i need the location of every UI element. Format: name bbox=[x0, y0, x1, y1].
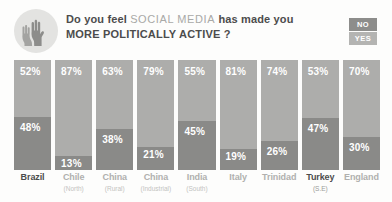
bar-segment-no: 55% bbox=[178, 60, 215, 121]
bar-segment-yes: 26% bbox=[261, 141, 298, 170]
country-name: Turkey bbox=[302, 172, 339, 183]
bar-column: 55%45% bbox=[178, 60, 215, 170]
bar-column: 87%13% bbox=[55, 60, 92, 170]
category-labels-row: BrazilChile(North)China(Rural)China(Indu… bbox=[14, 172, 380, 200]
bar-column: 79%21% bbox=[137, 60, 174, 170]
bar-column: 53%47% bbox=[302, 60, 339, 170]
legend-item-yes: YES bbox=[349, 32, 377, 45]
country-name: China bbox=[137, 172, 174, 183]
bar-segment-no: 70% bbox=[343, 60, 380, 137]
poll-question: Do you feel SOCIAL MEDIA has made you MO… bbox=[66, 12, 328, 41]
bar-value-yes: 48% bbox=[14, 117, 41, 133]
country-name: Italy bbox=[220, 172, 257, 183]
bar-segment-yes: 47% bbox=[302, 118, 339, 170]
bar-column: 74%26% bbox=[261, 60, 298, 170]
legend: NO YES bbox=[349, 18, 377, 45]
bar-segment-no: 52% bbox=[14, 60, 51, 117]
country-region: (South) bbox=[178, 184, 215, 193]
bar-segment-yes: 21% bbox=[137, 147, 174, 170]
bar-segment-yes: 30% bbox=[343, 137, 380, 170]
category-label: Italy bbox=[220, 172, 257, 200]
country-name: England bbox=[343, 172, 380, 183]
bar-segment-no: 79% bbox=[137, 60, 174, 147]
bar-value-no: 87% bbox=[55, 60, 82, 77]
bar-column: 70%30% bbox=[343, 60, 380, 170]
question-part-2: has made you bbox=[218, 13, 293, 25]
bar-segment-yes: 13% bbox=[55, 156, 92, 170]
bar-column: 63%38% bbox=[96, 60, 133, 170]
bar-value-no: 81% bbox=[220, 60, 247, 77]
category-label: Trinidad bbox=[261, 172, 298, 200]
bar-value-no: 70% bbox=[343, 60, 370, 77]
raised-hands-icon bbox=[14, 9, 58, 53]
bar-segment-yes: 19% bbox=[220, 149, 257, 170]
bar-value-no: 74% bbox=[261, 60, 288, 77]
stacked-bar-chart: 52%48%87%13%63%38%79%21%55%45%81%19%74%2… bbox=[14, 60, 380, 170]
bar-segment-yes: 48% bbox=[14, 117, 51, 170]
bar-value-yes: 45% bbox=[178, 121, 205, 137]
category-label: India(South) bbox=[178, 172, 215, 200]
header: Do you feel SOCIAL MEDIA has made you MO… bbox=[0, 0, 392, 56]
country-region: (Industrial) bbox=[137, 184, 174, 193]
question-line-1: Do you feel SOCIAL MEDIA has made you bbox=[66, 12, 328, 26]
category-label: Chile(North) bbox=[55, 172, 92, 200]
bar-segment-no: 53% bbox=[302, 60, 339, 118]
bar-value-yes: 30% bbox=[343, 137, 370, 153]
legend-item-no: NO bbox=[349, 18, 377, 31]
country-name: Chile bbox=[55, 172, 92, 183]
bar-segment-no: 87% bbox=[55, 60, 92, 156]
bar-value-yes: 21% bbox=[137, 147, 164, 160]
bar-value-yes: 13% bbox=[55, 156, 82, 169]
category-label: England bbox=[343, 172, 380, 200]
country-region: (North) bbox=[55, 184, 92, 193]
category-label: Brazil bbox=[14, 172, 51, 200]
bar-value-no: 63% bbox=[96, 60, 123, 77]
bar-value-no: 55% bbox=[178, 60, 205, 77]
country-region: (S.E) bbox=[302, 184, 339, 193]
bar-segment-yes: 38% bbox=[96, 129, 133, 170]
category-label: Turkey(S.E) bbox=[302, 172, 339, 200]
bar-value-yes: 26% bbox=[261, 141, 288, 157]
bar-value-no: 79% bbox=[137, 60, 164, 77]
bar-segment-no: 81% bbox=[220, 60, 257, 149]
country-region: (Rural) bbox=[96, 184, 133, 193]
bar-column: 81%19% bbox=[220, 60, 257, 170]
bar-value-yes: 47% bbox=[302, 118, 329, 134]
bar-value-no: 53% bbox=[302, 60, 329, 77]
bar-column: 52%48% bbox=[14, 60, 51, 170]
country-name: Brazil bbox=[14, 172, 51, 183]
bar-segment-yes: 45% bbox=[178, 121, 215, 171]
bar-value-yes: 38% bbox=[96, 129, 123, 145]
bar-value-yes: 19% bbox=[220, 149, 247, 162]
question-part-1: Do you feel bbox=[66, 13, 127, 25]
bar-segment-no: 63% bbox=[96, 60, 133, 129]
question-line-2: MORE POLITICALLY ACTIVE ? bbox=[66, 27, 328, 41]
category-label: China(Rural) bbox=[96, 172, 133, 200]
infographic-poll-social-media: Do you feel SOCIAL MEDIA has made you MO… bbox=[0, 0, 392, 202]
country-name: India bbox=[178, 172, 215, 183]
country-name: China bbox=[96, 172, 133, 183]
question-highlight: SOCIAL MEDIA bbox=[130, 13, 215, 25]
category-label: China(Industrial) bbox=[137, 172, 174, 200]
bar-value-no: 52% bbox=[14, 60, 41, 77]
country-name: Trinidad bbox=[261, 172, 298, 183]
bar-segment-no: 74% bbox=[261, 60, 298, 141]
